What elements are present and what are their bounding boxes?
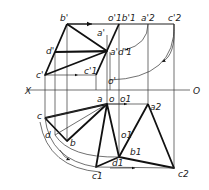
projection-diagram: X O b' d' c' a' o'1b'1 a'2 c'2 a'd'1 c'1… [0, 0, 209, 190]
axis-label-o: O [193, 86, 200, 96]
label-a2-prime: a'2 [141, 13, 155, 23]
label-c1-prime: c'1 [84, 66, 97, 76]
diagram-svg: X O b' d' c' a' o'1b'1 a'2 c'2 a'd'1 c'1… [0, 0, 209, 190]
label-o1-top: o1 [120, 94, 131, 104]
axis-label-x: X [24, 86, 32, 96]
label-c2-prime: c'2 [168, 13, 181, 23]
label-c1: c1 [92, 171, 103, 181]
label-b1: b1 [130, 147, 141, 157]
label-o-prime: o' [108, 76, 116, 86]
label-b: b [70, 138, 76, 148]
label-o: o [109, 94, 115, 104]
label-o1-mid: o1 [121, 130, 132, 140]
top-view [40, 104, 174, 172]
label-c: c [37, 111, 42, 121]
label-d-prime: d' [46, 46, 54, 56]
label-c2: c2 [178, 169, 189, 179]
label-a-prime-d1-prime: a'd'1 [110, 47, 132, 57]
label-o1-prime-b1-prime: o'1b'1 [108, 13, 136, 23]
label-a2: a2 [150, 102, 162, 112]
label-a: a [97, 94, 103, 104]
label-d: d [45, 130, 51, 140]
label-b-prime: b' [60, 13, 68, 23]
label-d1: d1 [112, 158, 123, 168]
label-c-prime: c' [36, 70, 43, 80]
label-a-prime: a' [97, 28, 105, 38]
